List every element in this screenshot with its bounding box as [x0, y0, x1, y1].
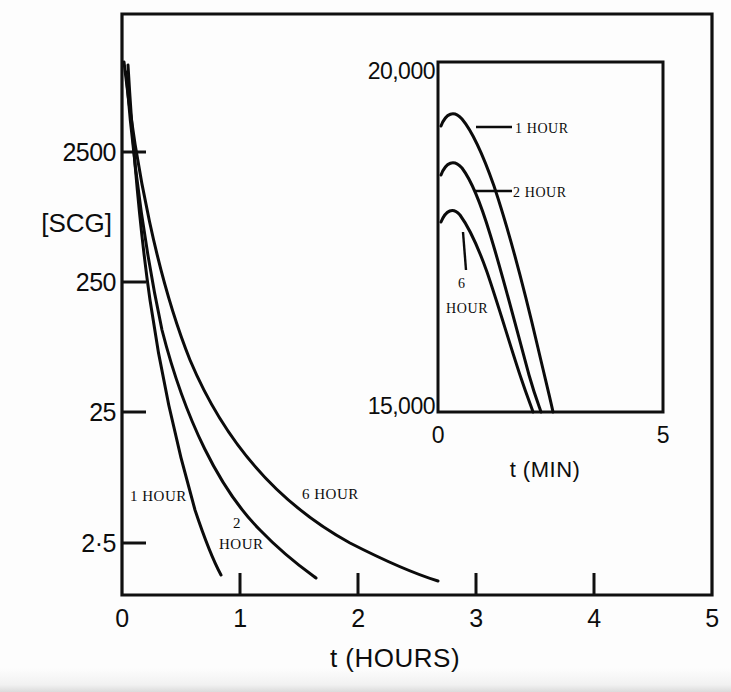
figure-root: 1 HOUR 2 HOUR 6 HOUR 2500 250 25 2·5 [SC… — [0, 0, 731, 692]
main-label-2-hour-line2: HOUR — [219, 536, 264, 552]
main-ytick-label-2500: 2500 — [62, 138, 116, 166]
main-xtick-label-1: 1 — [233, 604, 246, 632]
main-xtick-label-0: 0 — [115, 604, 128, 632]
inset-plot-group: 1 HOUR 2 HOUR 6 HOUR 20,000 15,000 0 5 t… — [368, 58, 670, 482]
chart-canvas: 1 HOUR 2 HOUR 6 HOUR 2500 250 25 2·5 [SC… — [0, 0, 731, 692]
main-x-axis-title: t (HOURS) — [330, 643, 460, 673]
main-label-2-hour-line1: 2 — [233, 515, 241, 531]
inset-leader-6-hour — [463, 232, 466, 270]
inset-label-2-hour: 2 HOUR — [513, 185, 567, 200]
inset-x-axis-title: t (MIN) — [510, 457, 581, 482]
inset-xtick-label-5: 5 — [657, 422, 669, 448]
main-y-axis-label: [SCG] — [41, 208, 112, 238]
main-ytick-label-25: 25 — [89, 398, 116, 426]
main-xtick-label-3: 3 — [469, 604, 482, 632]
inset-label-6-hour-line1: 6 — [458, 276, 466, 291]
inset-label-6-hour-line2: HOUR — [446, 301, 488, 316]
main-plot-group: 1 HOUR 2 HOUR 6 HOUR 2500 250 25 2·5 [SC… — [41, 14, 719, 673]
inset-label-1-hour: 1 HOUR — [515, 121, 569, 136]
inset-ytick-label-15000: 15,000 — [368, 393, 435, 419]
main-xtick-label-2: 2 — [351, 604, 364, 632]
main-xtick-label-5: 5 — [705, 604, 718, 632]
main-ytick-label-2p5: 2·5 — [81, 529, 116, 557]
main-plot-frame — [122, 14, 712, 595]
main-label-1-hour: 1 HOUR — [130, 488, 187, 504]
main-xtick-label-4: 4 — [587, 604, 601, 632]
main-ytick-label-250: 250 — [76, 268, 116, 296]
inset-xtick-label-0: 0 — [432, 422, 444, 448]
inset-ytick-label-20000: 20,000 — [368, 58, 435, 84]
main-label-6-hour: 6 HOUR — [302, 486, 359, 502]
